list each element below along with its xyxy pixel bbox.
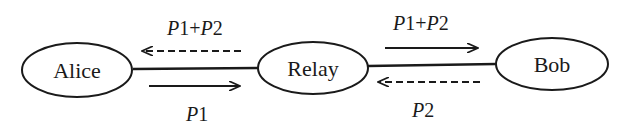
link-alice-relay: [133, 68, 258, 69]
label-relay-bob-bottom: P2: [411, 99, 434, 121]
node-relay: Relay: [258, 42, 368, 94]
label-alice-relay-bottom: P1: [185, 103, 208, 125]
node-bob-label: Bob: [534, 52, 571, 77]
relay-diagram: Alice Relay Bob P1+P2 P1 P1+P2 P2: [0, 0, 626, 130]
label-alice-relay-top: P1+P2: [166, 17, 223, 39]
label-relay-bob-top: P1+P2: [392, 12, 449, 34]
node-alice: Alice: [22, 43, 132, 97]
link-relay-bob: [368, 64, 496, 66]
node-alice-label: Alice: [53, 58, 101, 83]
node-relay-label: Relay: [287, 56, 338, 81]
node-bob: Bob: [496, 38, 608, 90]
